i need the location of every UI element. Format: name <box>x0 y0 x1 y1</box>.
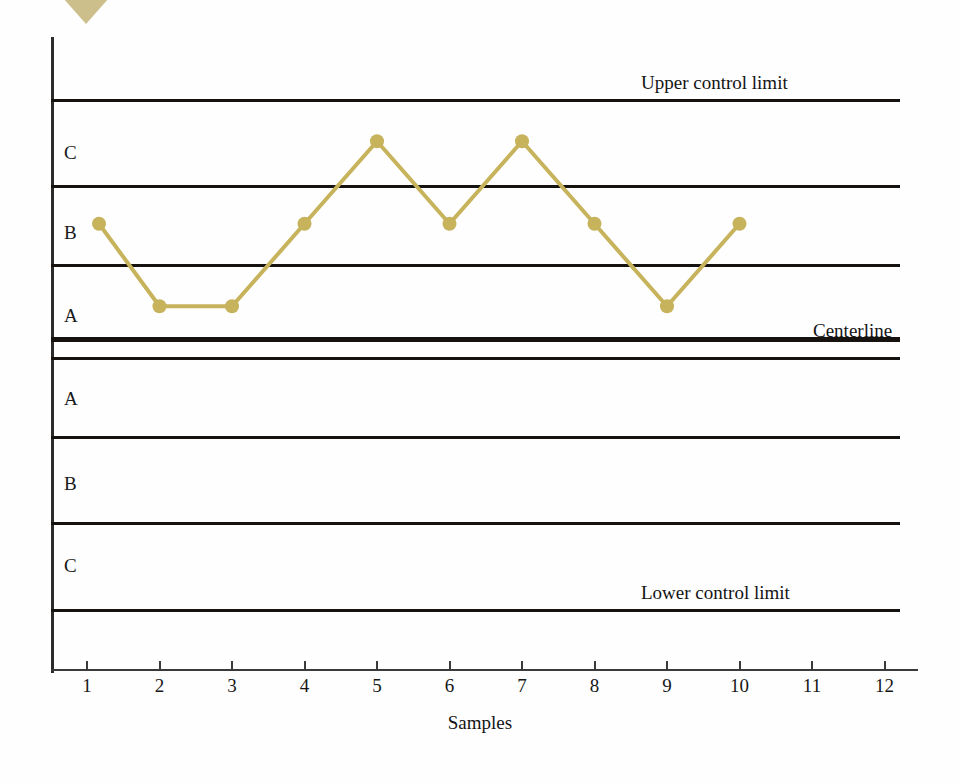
x-axis-line <box>51 669 918 671</box>
x-tick-label-11: 11 <box>792 676 832 696</box>
data-point-1 <box>92 217 106 231</box>
x-tick-label-1: 1 <box>67 676 107 696</box>
lower-control-limit-line <box>51 609 900 612</box>
x-tick-12 <box>884 661 886 670</box>
x-tick-label-2: 2 <box>140 676 180 696</box>
x-tick-label-10: 10 <box>720 676 760 696</box>
x-tick-label-9: 9 <box>647 676 687 696</box>
data-point-5 <box>370 134 384 148</box>
data-point-7 <box>515 134 529 148</box>
zone-label-lower-a: A <box>64 389 78 408</box>
data-point-10 <box>733 217 747 231</box>
zone-line-lower-a-b <box>51 436 900 439</box>
data-point-8 <box>588 217 602 231</box>
zone-label-lower-b: B <box>64 474 77 493</box>
x-tick-label-6: 6 <box>430 676 470 696</box>
x-tick-9 <box>666 661 668 670</box>
series-markers <box>92 134 747 313</box>
data-point-6 <box>443 217 457 231</box>
x-tick-3 <box>231 661 233 670</box>
lower-control-limit-label: Lower control limit <box>641 583 790 602</box>
data-point-9 <box>660 299 674 313</box>
series-line <box>99 141 740 306</box>
data-point-3 <box>225 299 239 313</box>
x-tick-5 <box>376 661 378 670</box>
zone-line-upper-c-b <box>51 185 900 188</box>
zone-label-upper-b: B <box>64 223 77 242</box>
x-tick-label-3: 3 <box>212 676 252 696</box>
upper-control-limit-label: Upper control limit <box>641 73 788 92</box>
x-tick-label-7: 7 <box>502 676 542 696</box>
x-tick-11 <box>811 661 813 670</box>
data-point-4 <box>298 217 312 231</box>
zone-label-upper-c: C <box>64 143 77 162</box>
upper-control-limit-line <box>51 99 900 102</box>
x-tick-4 <box>304 661 306 670</box>
centerline-label: Centerline <box>813 321 892 340</box>
x-tick-2 <box>159 661 161 670</box>
control-chart: C B A A B C Upper control limit Centerli… <box>0 0 960 783</box>
y-axis-line <box>51 37 54 673</box>
data-point-2 <box>153 299 167 313</box>
x-tick-6 <box>449 661 451 670</box>
x-tick-label-4: 4 <box>285 676 325 696</box>
zone-label-lower-c: C <box>64 556 77 575</box>
x-tick-10 <box>739 661 741 670</box>
zone-line-lower-a-top <box>51 357 900 360</box>
decorative-wedge-icon <box>63 0 109 24</box>
zone-label-upper-a: A <box>64 306 78 325</box>
x-tick-7 <box>521 661 523 670</box>
x-axis-title: Samples <box>0 712 960 734</box>
series-plot <box>0 0 960 783</box>
centerline-upper-edge <box>51 337 900 342</box>
x-tick-1 <box>86 661 88 670</box>
x-tick-8 <box>594 661 596 670</box>
x-tick-label-8: 8 <box>575 676 615 696</box>
x-tick-label-12: 12 <box>865 676 905 696</box>
x-tick-label-5: 5 <box>357 676 397 696</box>
zone-line-lower-b-c <box>51 522 900 525</box>
zone-line-upper-b-a <box>51 264 900 267</box>
